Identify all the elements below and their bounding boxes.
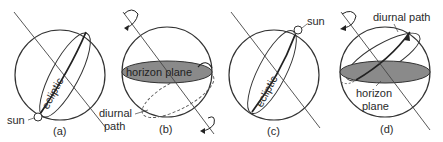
label-path: path <box>104 120 125 132</box>
rotation-arrow-top-icon <box>124 10 138 28</box>
label-ecliptic: ecliptic <box>253 73 280 109</box>
label-diurnal-path: diurnal path <box>373 11 431 23</box>
caption-a: (a) <box>53 125 66 137</box>
sun-marker <box>34 113 42 121</box>
panel-c: sun ecliptic (c) <box>229 12 325 137</box>
label-sun: sun <box>307 15 325 27</box>
label-sun: sun <box>7 114 25 126</box>
label-horizon: horizon <box>356 87 392 99</box>
sun-marker <box>294 26 302 34</box>
rotation-arrow-icon <box>342 11 356 28</box>
label-plane: plane <box>362 100 389 112</box>
label-horizon-plane: horizon plane <box>126 66 192 78</box>
ecliptic-circle <box>239 25 306 120</box>
caption-c: (c) <box>267 125 280 137</box>
celestial-sphere-figure: sun ecliptic (a) diurnal path horizon pl… <box>0 0 443 142</box>
caption-b: (b) <box>159 123 172 135</box>
panel-d: diurnal path horizon plane (d) <box>340 11 431 135</box>
panel-a: sun ecliptic (a) <box>7 12 106 137</box>
label-diurnal: diurnal <box>99 107 132 119</box>
panel-b: horizon plane (b) <box>122 10 220 135</box>
caption-d: (d) <box>380 123 393 135</box>
rotation-axis <box>231 12 320 128</box>
horizon-plane <box>340 61 430 83</box>
